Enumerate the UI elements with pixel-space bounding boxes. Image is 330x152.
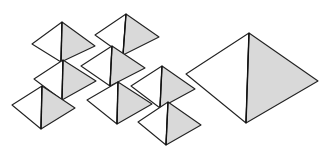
pyramid-ridge-edge xyxy=(61,22,62,62)
pyramid-light-face xyxy=(186,33,249,123)
pyramid-small-2 xyxy=(95,14,159,55)
pyramid-small-1 xyxy=(32,22,95,62)
pyramid-ridge-edge xyxy=(117,82,118,124)
pyramid-shaded-face xyxy=(61,22,95,62)
pyramid-ridge-edge xyxy=(62,60,63,100)
pyramid-light-face xyxy=(12,86,42,129)
pyramid-shaded-face xyxy=(123,14,159,55)
pyramid-ridge-edge xyxy=(41,86,42,129)
pyramid-light-face xyxy=(87,82,118,124)
pyramid-shaded-face xyxy=(246,33,318,123)
pyramid-light-face xyxy=(32,22,62,62)
pyramid-shaded-face xyxy=(166,102,201,145)
pyramids-illustration xyxy=(0,0,330,152)
pyramid-large xyxy=(186,33,318,123)
pyramids-diagram xyxy=(0,0,330,152)
pyramid-small-8 xyxy=(138,102,201,145)
